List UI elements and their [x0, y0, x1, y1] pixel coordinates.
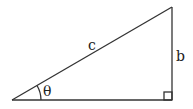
- triangle: [12, 7, 172, 100]
- angle-arc: [37, 86, 41, 101]
- hypotenuse-label: c: [88, 37, 96, 53]
- angle-label: θ: [43, 83, 51, 99]
- right-angle-marker: [164, 92, 172, 100]
- triangle-diagram: c b θ: [0, 0, 193, 109]
- hypotenuse-edge: [12, 7, 172, 100]
- opposite-label: b: [176, 48, 185, 64]
